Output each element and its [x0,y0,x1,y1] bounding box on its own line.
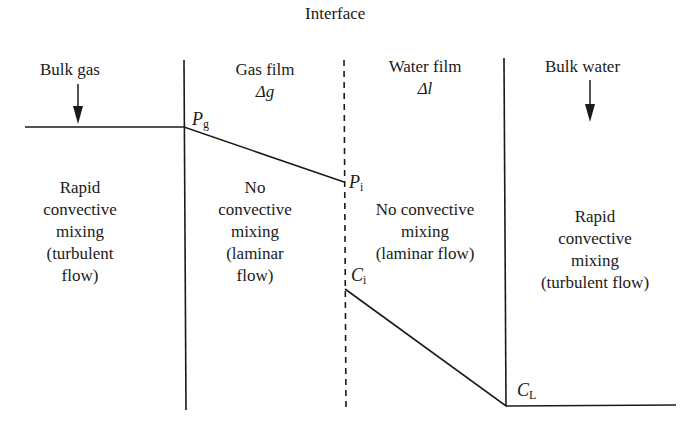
gas-film-outer-boundary [184,60,186,410]
water-film-label: Water film Δl [370,56,480,100]
water-film-description: No convective mixing (laminar flow) [355,199,495,265]
gas-film-label: Gas film Δg [220,59,310,103]
ci-label: Ci [351,265,366,288]
interface-dashed-line [344,60,346,410]
pg-label: Pg [192,109,209,132]
interface-title: Interface [305,3,365,25]
bulk-water-label: Bulk water [545,56,620,78]
pi-label: Pi [349,172,363,195]
water-film-outer-boundary [504,58,506,406]
gas-film-description: No convective mixing (laminar flow) [200,177,310,287]
cl-label: CL [517,380,536,403]
gas-film-thickness: Δg [220,81,310,103]
bulk-water-description: Rapid convective mixing (turbulent flow) [525,206,665,294]
water-film-title: Water film [370,56,480,78]
gas-film-title: Gas film [220,59,310,81]
bulk-water-arrowhead-icon [585,104,595,122]
bulk-gas-description: Rapid convective mixing (turbulent flow) [20,177,140,287]
bulk-gas-arrowhead-icon [73,106,83,124]
water-film-thickness: Δl [370,78,480,100]
liquid-concentration-profile [345,289,676,406]
bulk-gas-label: Bulk gas [40,59,100,81]
